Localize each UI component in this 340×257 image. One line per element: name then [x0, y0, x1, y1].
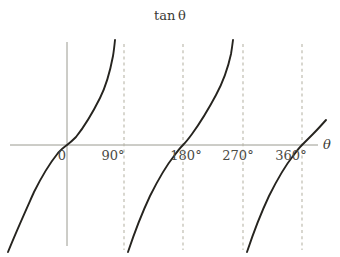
tick-label-360: 360° — [275, 148, 306, 163]
tan-curve-branch-1 — [8, 40, 115, 252]
x-axis-label: θ — [323, 137, 331, 152]
tick-label-180: 180° — [170, 148, 201, 163]
chart-title: tan θ — [154, 8, 186, 23]
tan-theta-figure: tan θ 0 90° 180° 270° 360° θ — [0, 0, 340, 257]
tick-label-90: 90° — [101, 148, 124, 163]
tan-curve-branch-3 — [247, 120, 326, 252]
chart-canvas: tan θ 0 90° 180° 270° 360° θ — [0, 0, 340, 257]
tan-curve-branch-2 — [128, 40, 233, 252]
tick-label-0: 0 — [58, 148, 66, 163]
tick-label-270: 270° — [222, 148, 253, 163]
